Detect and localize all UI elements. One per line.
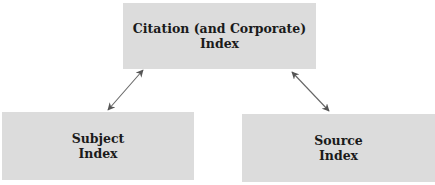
edges-layer (0, 0, 435, 185)
bidirectional-arrow-citation-source (292, 72, 329, 111)
bidirectional-arrow-citation-subject (108, 70, 143, 110)
